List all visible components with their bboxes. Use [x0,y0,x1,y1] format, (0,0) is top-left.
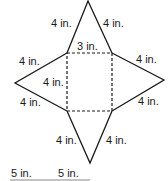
label-top-right: 4 in. [103,17,124,29]
label-right-upper: 4 in. [136,53,157,65]
label-base-top: 3 in. [77,40,98,52]
label-left-inner: 4 in. [43,76,64,88]
label-right-lower: 4 in. [138,95,159,107]
label-left-lower: 4 in. [20,96,41,108]
label-footer-1: 5 in. [11,167,32,179]
label-bottom-left: 4 in. [56,134,77,146]
label-bottom-right: 4 in. [106,134,127,146]
label-footer-2: 5 in. [58,167,79,179]
label-left-upper: 4 in. [19,55,40,67]
pyramid-net-diagram: 4 in. 4 in. 3 in. 4 in. 4 in. 4 in. 4 in… [0,0,168,181]
square-base [67,53,112,111]
label-top-left: 4 in. [51,17,72,29]
